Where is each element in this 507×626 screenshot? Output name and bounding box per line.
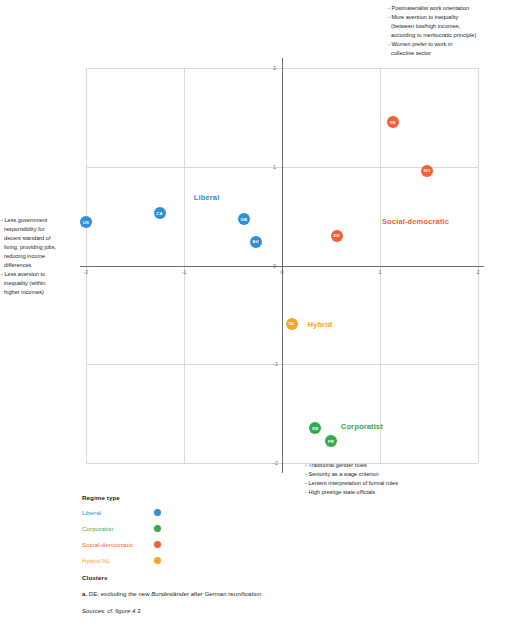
data-point-no[interactable]: NO	[421, 165, 433, 177]
cluster-label-hybrid: Hybrid	[307, 320, 332, 329]
data-point-fr[interactable]: FR	[325, 435, 337, 447]
legend-swatch-socdem-icon	[154, 541, 161, 548]
legend-item-label: Liberal	[82, 509, 101, 516]
data-point-nl[interactable]: NL	[286, 318, 298, 330]
legend-item-hybrid[interactable]: Hybrid NL	[82, 556, 292, 568]
legend-item-socdem[interactable]: Social-democratic	[82, 540, 292, 552]
scatter-plot: -2-1012-2-1012 USCAGBAUDKSENONLDEFR Libe…	[86, 68, 478, 463]
data-point-us[interactable]: US	[80, 216, 92, 228]
x-tick-label: 0	[280, 269, 283, 275]
cluster-label-corporatist: Corporatist	[341, 422, 383, 431]
figure-page: - Postmaterialist work orientation- More…	[0, 0, 507, 626]
legend-swatch-liberal-icon	[154, 509, 161, 516]
footnote-a: a. DE: excluding the new Bundesländer af…	[82, 591, 412, 597]
data-point-gb[interactable]: GB	[238, 213, 250, 225]
annotation-bottom-line: - Lenient interpretation of formal rules	[305, 479, 475, 488]
x-tick-label: -2	[83, 269, 88, 275]
annotation-bottom-line: - High prestige state officials	[305, 488, 475, 497]
annotation-left-line: decent standard of	[1, 234, 75, 243]
legend-item-label: Social-democratic	[82, 541, 133, 548]
legend-swatch-corporatist-icon	[154, 525, 161, 532]
y-tick-label: 2	[273, 65, 276, 71]
cluster-label-liberal: Liberal	[194, 193, 220, 202]
y-tick-label: 0	[273, 263, 276, 269]
legend-rows: LiberalCorporatistSocial-democraticHybri…	[82, 508, 292, 568]
x-tick-label: 1	[378, 269, 381, 275]
annotation-top-right-line: collective sector	[388, 49, 506, 58]
legend-item-corporatist[interactable]: Corporatist	[82, 524, 292, 536]
annotation-left-line: - Less aversion to	[1, 270, 75, 279]
legend-item-label: Corporatist	[82, 525, 113, 532]
legend-item-liberal[interactable]: Liberal	[82, 508, 292, 520]
legend-item-label: Hybrid NL	[82, 557, 110, 564]
annotation-left: - Less government responsibility for dec…	[1, 216, 75, 297]
y-tick-label: -1	[273, 361, 278, 367]
annotation-left-line: inequality (within	[1, 279, 75, 288]
data-point-de[interactable]: DE	[309, 422, 321, 434]
y-tick-label: -2	[273, 460, 278, 466]
annotation-left-line: responsibility for	[1, 225, 75, 234]
annotation-top-right: - Postmaterialist work orientation- More…	[388, 4, 506, 58]
annotation-top-right-line: - Women prefer to work in	[388, 40, 506, 49]
legend-title: Regime type	[82, 494, 292, 501]
notes-title: Clusters	[82, 574, 412, 581]
annotation-top-right-line: - More aversion to inequality	[388, 13, 506, 22]
footnote-text-2: after German reunification	[189, 591, 261, 597]
cluster-label-socdem: Social-democratic	[382, 217, 449, 226]
annotation-top-right-line: (between low/high incomes;	[388, 22, 506, 31]
data-point-dk[interactable]: DK	[331, 230, 343, 242]
annotation-bottom-line: - Seniority as a wage criterion	[305, 470, 475, 479]
footnote-text-1: DE: excluding the new	[87, 591, 151, 597]
notes-block: Clusters a. DE: excluding the new Bundes…	[82, 574, 412, 614]
annotation-left-line: - Less government	[1, 216, 75, 225]
y-tick-label: 1	[273, 164, 276, 170]
annotation-top-right-line: according to meritocratic principle)	[388, 31, 506, 40]
legend: Regime type LiberalCorporatistSocial-dem…	[82, 494, 292, 572]
data-point-se[interactable]: SE	[387, 116, 399, 128]
x-axis-line	[80, 266, 484, 267]
data-point-ca[interactable]: CA	[154, 207, 166, 219]
x-tick-label: -1	[181, 269, 186, 275]
x-tick-label: 2	[476, 269, 479, 275]
annotation-bottom: - Traditional gender roles- Seniority as…	[305, 461, 475, 497]
annotation-left-line: reducing income	[1, 252, 75, 261]
annotation-left-line: living, providing jobs,	[1, 243, 75, 252]
data-point-au[interactable]: AU	[250, 236, 262, 248]
annotation-top-right-line: - Postmaterialist work orientation	[388, 4, 506, 13]
legend-swatch-hybrid-icon	[154, 557, 161, 564]
source-line: Sources: cf. figure 4.3	[82, 608, 412, 614]
annotation-left-line: differences	[1, 261, 75, 270]
footnote-italic: Bundesländer	[151, 591, 189, 597]
annotation-left-line: higher incomes)	[1, 288, 75, 297]
